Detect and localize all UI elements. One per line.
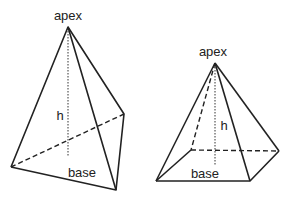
apex-label: apex bbox=[199, 44, 228, 59]
triangular-pyramid: apex h base bbox=[11, 8, 124, 190]
hidden-base-edge bbox=[191, 150, 279, 151]
square-pyramid: apex h base bbox=[156, 44, 279, 181]
base-label: base bbox=[191, 166, 219, 181]
base-label: base bbox=[68, 165, 96, 180]
apex-label: apex bbox=[54, 8, 83, 23]
lateral-edge-front-left bbox=[156, 63, 215, 181]
lateral-edge-back-right bbox=[215, 63, 279, 151]
pyramids-diagram: apex h base apex h base bbox=[0, 0, 292, 197]
height-label: h bbox=[220, 118, 227, 133]
height-label: h bbox=[56, 108, 63, 123]
hidden-lateral-edge bbox=[191, 63, 215, 150]
base-left-edge bbox=[156, 150, 191, 181]
